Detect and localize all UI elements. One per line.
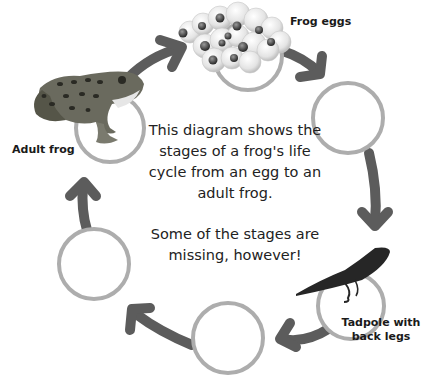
intro-text: This diagram shows the stages of a frog'… xyxy=(140,120,330,204)
frog-life-cycle-diagram: Frog eggs Adult frog Tadpole with back l… xyxy=(0,0,432,380)
diagram-description: This diagram shows the stages of a frog'… xyxy=(140,120,330,266)
circle-stage4-empty xyxy=(193,303,263,373)
note-text: Some of the stages are missing, however! xyxy=(140,224,330,266)
arrow-tadpole-to-stage4 xyxy=(280,323,330,347)
arrow-adult-to-eggs xyxy=(128,40,182,78)
label-tadpole-line2: back legs xyxy=(341,330,421,344)
label-tadpole-line1: Tadpole with xyxy=(341,316,421,330)
label-frog-eggs: Frog eggs xyxy=(290,15,351,29)
circle-stage5-empty xyxy=(59,229,129,299)
arrow-stage4-to-stage5 xyxy=(130,308,192,345)
arrow-stage5-to-adult xyxy=(70,182,96,230)
label-adult-frog: Adult frog xyxy=(12,143,75,157)
label-tadpole: Tadpole with back legs xyxy=(341,316,421,344)
arrow-eggs-to-stage2 xyxy=(280,50,322,77)
arrow-stage2-to-tadpole xyxy=(362,153,388,226)
